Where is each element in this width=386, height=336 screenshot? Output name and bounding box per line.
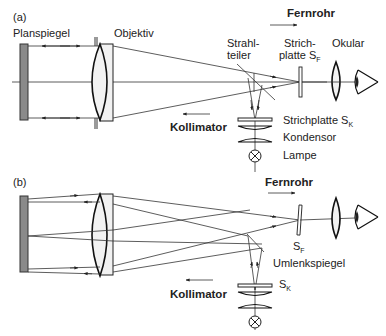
panel-a-label: (a)	[13, 11, 26, 23]
label-strahl: Strahl-	[227, 37, 260, 49]
label-strichplatte-sk: Strichplatte SK	[283, 114, 353, 128]
label-kollimator-a: Kollimator	[170, 121, 227, 133]
label-objektiv: Objektiv	[114, 27, 154, 39]
eyepiece-lens-b	[332, 198, 340, 238]
eyepiece-lens	[332, 62, 340, 100]
label-lampe: Lampe	[283, 149, 317, 161]
label-fernrohr-a: Fernrohr	[287, 7, 335, 19]
plane-mirror	[20, 44, 28, 120]
label-platte-sf: platte SF	[279, 49, 321, 63]
label-sk-b: SK	[279, 278, 291, 292]
label-okular: Okular	[332, 37, 365, 49]
panel-b-label: (b)	[13, 176, 26, 188]
label-kollimator-b: Kollimator	[170, 288, 227, 300]
label-kondensor: Kondensor	[283, 131, 337, 143]
autocollimator-diagram: (a) Planspiegel Objektiv Strahl- teiler	[0, 0, 386, 336]
label-planspiegel: Planspiegel	[13, 27, 70, 39]
reticle-sk-b	[238, 284, 272, 287]
aperture-stop-top	[94, 37, 98, 46]
label-fernrohr-b: Fernrohr	[265, 176, 313, 188]
plane-mirror-b	[20, 196, 28, 272]
panel-b: (b) Umlenkspiegel	[13, 176, 378, 330]
label-teiler: teiler	[227, 49, 251, 61]
label-umlenkspiegel: Umlenkspiegel	[273, 257, 345, 269]
label-sf-b: SF	[293, 240, 305, 254]
reticle-sk	[238, 118, 272, 121]
aperture-stop-bottom	[94, 118, 98, 129]
label-strich: Strich-	[284, 37, 316, 49]
panel-a: (a) Planspiegel Objektiv Strahl- teiler	[12, 7, 378, 172]
reticle-sf	[299, 67, 302, 97]
